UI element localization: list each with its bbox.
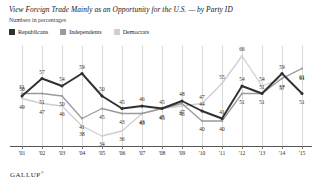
data-point: [61, 85, 64, 88]
data-point: [121, 107, 124, 110]
x-axis-label: '09: [179, 150, 186, 156]
data-label: 59: [279, 64, 284, 70]
data-label: 45: [99, 114, 104, 120]
x-axis-tick: [62, 146, 63, 149]
x-axis-tick: [142, 146, 143, 149]
data-point: [121, 130, 123, 132]
data-point: [181, 102, 183, 104]
data-label: 44: [199, 101, 204, 107]
legend-label: Democrats: [123, 29, 149, 35]
series-lines: [10, 46, 312, 146]
data-label: 51: [19, 84, 24, 90]
x-axis-tick: [242, 146, 243, 149]
legend-label: Republicans: [18, 29, 48, 35]
data-label: 51: [299, 99, 304, 105]
x-axis-label: '13: [259, 150, 266, 156]
x-axis-label: '11: [219, 150, 225, 156]
data-point: [101, 135, 103, 137]
chart-legend: RepublicansIndependentsDemocrats: [9, 29, 161, 35]
data-label: 51: [259, 84, 264, 90]
x-axis-label: '15: [299, 150, 306, 156]
data-label: 48: [179, 91, 184, 97]
x-axis-label: '10: [199, 150, 206, 156]
data-point: [41, 77, 44, 80]
data-label: 46: [59, 111, 64, 117]
registered-mark-icon: ®: [41, 170, 45, 175]
x-axis-label: '08: [159, 150, 166, 156]
data-point: [81, 72, 84, 75]
data-point: [241, 55, 243, 57]
gallup-text: GALLUP: [10, 171, 41, 179]
x-axis-tick: [202, 146, 203, 149]
data-label: 55: [219, 74, 224, 80]
data-point: [181, 105, 183, 107]
data-label: 46: [179, 111, 184, 117]
data-label: 50: [59, 101, 64, 107]
x-axis-tick: [262, 146, 263, 149]
data-point: [21, 95, 24, 98]
data-label: 45: [159, 115, 164, 121]
data-point: [201, 120, 203, 122]
data-label: 47: [199, 94, 204, 100]
data-point: [281, 77, 283, 79]
chart-title: View Foreign Trade Mainly as an Opportun…: [9, 5, 233, 14]
x-axis-label: '14: [279, 150, 286, 156]
data-point: [181, 100, 184, 103]
x-axis-tick: [82, 146, 83, 149]
x-axis-line: [10, 146, 312, 147]
data-point: [41, 92, 43, 94]
data-label: 57: [39, 69, 44, 75]
x-axis-label: '12: [239, 150, 246, 156]
chart-page: View Foreign Trade Mainly as an Opportun…: [0, 0, 321, 186]
data-point: [21, 97, 23, 99]
data-label: 43: [139, 120, 144, 126]
x-axis-label: '07: [139, 150, 146, 156]
data-label: 40: [199, 126, 204, 132]
data-label: 54: [59, 76, 64, 82]
x-axis-tick: [282, 146, 283, 149]
data-point: [161, 107, 164, 110]
data-label: 51: [239, 99, 244, 105]
data-point: [121, 112, 123, 114]
data-label: 57: [279, 85, 284, 91]
x-axis-label: '02: [39, 150, 46, 156]
data-label: 47: [39, 109, 44, 115]
x-axis-tick: [42, 146, 43, 149]
legend-item-republicans[interactable]: Republicans: [9, 29, 48, 35]
data-label: 41: [219, 109, 224, 115]
data-point: [221, 82, 223, 84]
data-label: 45: [159, 99, 164, 105]
legend-swatch-icon: [60, 29, 66, 35]
x-axis-label: '01: [19, 150, 26, 156]
data-label: 51: [259, 99, 264, 105]
data-label: 40: [219, 126, 224, 132]
data-label: 50: [99, 86, 104, 92]
x-axis-tick: [122, 146, 123, 149]
x-axis-tick: [222, 146, 223, 149]
data-point: [261, 92, 264, 95]
data-point: [101, 107, 103, 109]
legend-swatch-icon: [114, 29, 120, 35]
data-label: 61: [299, 75, 304, 81]
x-axis-label: '06: [119, 150, 126, 156]
data-label: 54: [259, 76, 264, 82]
data-point: [301, 92, 304, 95]
legend-item-democrats[interactable]: Democrats: [114, 29, 149, 35]
data-point: [241, 85, 244, 88]
data-point: [241, 92, 243, 94]
data-label: 59: [79, 64, 84, 70]
plot-area: 5057545950454645484441545159515151504145…: [10, 46, 312, 146]
data-point: [141, 112, 143, 114]
data-label: 66: [239, 46, 244, 52]
series-line-democrats: [22, 56, 302, 136]
data-label: 36: [119, 136, 124, 142]
data-label: 51: [39, 99, 44, 105]
data-point: [301, 67, 303, 69]
data-label: 43: [119, 119, 124, 125]
legend-label: Independents: [69, 29, 102, 35]
x-axis-tick: [182, 146, 183, 149]
x-axis-tick: [22, 146, 23, 149]
legend-swatch-icon: [9, 29, 15, 35]
data-point: [221, 120, 223, 122]
legend-item-independents[interactable]: Independents: [60, 29, 102, 35]
